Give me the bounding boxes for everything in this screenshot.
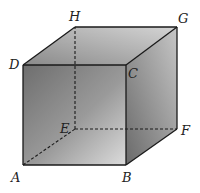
vertex-label-F: F	[180, 123, 191, 138]
vertex-label-H: H	[68, 9, 81, 24]
front-face-ABCD	[23, 65, 126, 165]
vertex-label-G: G	[178, 11, 188, 26]
vertex-label-B: B	[121, 170, 132, 185]
vertex-label-A: A	[10, 170, 20, 185]
vertex-label-C: C	[128, 66, 138, 81]
cube-diagram: A B C D E F G H	[0, 0, 200, 193]
vertex-label-D: D	[8, 57, 20, 72]
vertex-label-E: E	[59, 121, 70, 136]
